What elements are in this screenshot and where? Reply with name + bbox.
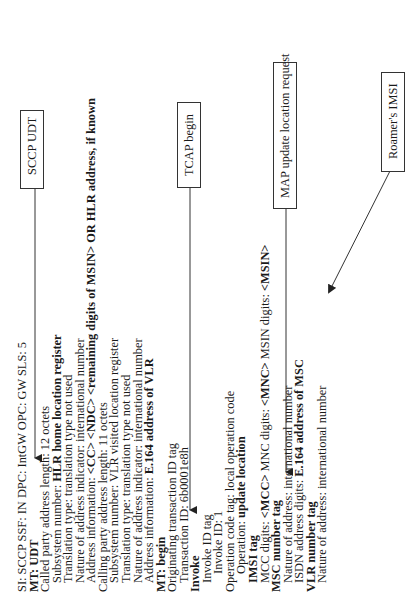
message-field-value: update location: [234, 436, 248, 518]
map-update-location-label: MAP update location request: [278, 54, 292, 198]
sccp-udt-label: SCCP UDT: [25, 117, 39, 175]
tcap-begin-callout: TCAP begin: [177, 102, 201, 188]
message-field-text: MSIN digits:: [258, 291, 272, 362]
message-line: Nature of address: international number: [316, 386, 329, 584]
roamers-imsi-callout: Roamer's IMSI: [381, 72, 405, 172]
message-field-text: MNC digits:: [258, 406, 272, 475]
message-field-value: <MNC>: [258, 362, 272, 406]
sccp-udt-callout: SCCP UDT: [20, 110, 44, 189]
message-field-value: E.164 address of MSC: [292, 359, 306, 477]
map-update-location-callout: MAP update location request: [273, 62, 297, 209]
message-field-value: E.164 address of VLR: [142, 358, 156, 474]
tcap-begin-label: TCAP begin: [182, 114, 196, 176]
message-field-text: Nature of address: international number: [315, 386, 329, 584]
message-field-value: <MSIN>: [258, 245, 272, 291]
diagram-canvas: SCCP UDT TCAP begin MAP update location …: [0, 0, 411, 604]
imsi-arrow: [329, 171, 390, 292]
roamers-imsi-label: Roamer's IMSI: [386, 83, 400, 159]
